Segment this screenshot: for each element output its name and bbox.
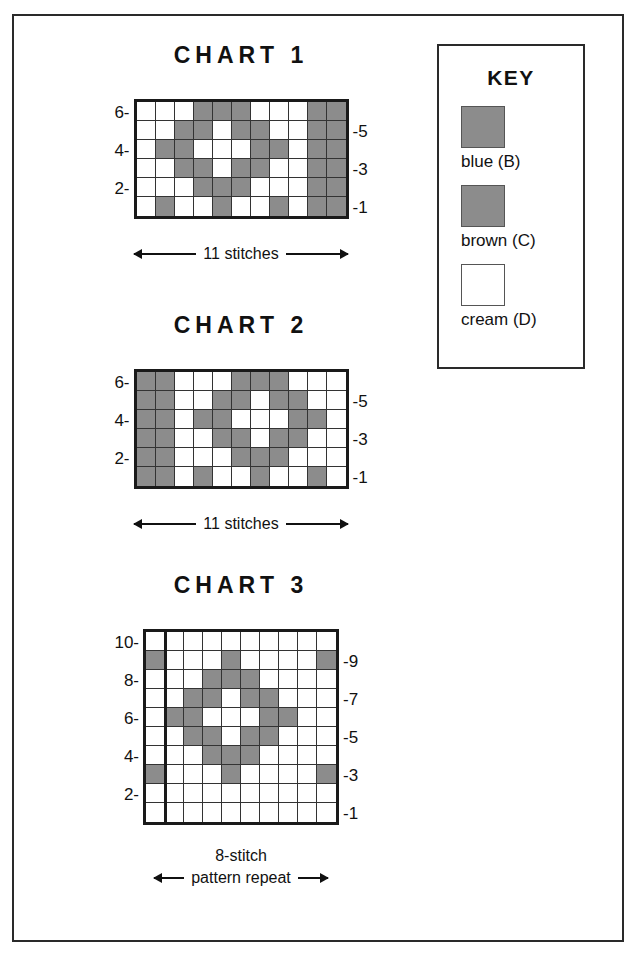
chart-cell (260, 670, 279, 689)
chart-cell (222, 765, 241, 784)
chart-cell (165, 765, 184, 784)
chart-cell (289, 197, 308, 216)
row-label-left: 2- (114, 180, 129, 197)
chart-2-body: 6-4-2- -5-3-1 (66, 369, 416, 489)
chart-cell (194, 372, 213, 391)
chart-cell (213, 429, 232, 448)
chart-cell (175, 197, 194, 216)
row-label-left: 4- (114, 412, 129, 429)
chart-cell (251, 410, 270, 429)
chart-cell (194, 410, 213, 429)
chart-cell (298, 765, 317, 784)
chart-cell (203, 784, 222, 803)
chart-cell (251, 121, 270, 140)
chart-cell (232, 410, 251, 429)
chart-cell (232, 391, 251, 410)
chart-cell (137, 467, 156, 486)
left-arrow-icon (154, 877, 184, 879)
chart-cell (260, 708, 279, 727)
chart-cell (184, 632, 203, 651)
chart-1-left-row-labels: 6-4-2- (92, 99, 134, 213)
chart-cell (298, 708, 317, 727)
chart-cell (317, 784, 336, 803)
chart-cell (270, 178, 289, 197)
chart-cell (184, 746, 203, 765)
chart-cell (146, 708, 165, 727)
chart-cell (156, 391, 175, 410)
chart-cell (308, 159, 327, 178)
chart-cell (327, 197, 346, 216)
chart-cell (327, 178, 346, 197)
chart-cell (308, 372, 327, 391)
chart-cell (289, 391, 308, 410)
chart-cell (289, 121, 308, 140)
chart-3-left-row-labels: 10-8-6-4-2- (101, 629, 143, 819)
chart-cell (270, 429, 289, 448)
key-item: blue (B) (461, 106, 583, 172)
chart-cell (175, 429, 194, 448)
chart-cell (279, 670, 298, 689)
chart-cell (241, 803, 260, 822)
chart-cell (194, 121, 213, 140)
chart-cell (232, 102, 251, 121)
chart-cell (222, 727, 241, 746)
chart-cell (194, 197, 213, 216)
right-arrow-icon (286, 253, 348, 255)
key-title: KEY (439, 66, 583, 90)
chart-cell (298, 727, 317, 746)
chart-cell (260, 803, 279, 822)
chart-cell (279, 708, 298, 727)
chart-1-title: CHART 1 (66, 42, 416, 69)
chart-cell (270, 410, 289, 429)
row-label-right: -1 (353, 199, 368, 216)
chart-cell (137, 140, 156, 159)
chart-2-caption: 11 stitches (66, 515, 416, 533)
chart-cell (279, 784, 298, 803)
chart-cell (194, 140, 213, 159)
chart-cell (213, 178, 232, 197)
row-label-left: 4- (124, 748, 139, 765)
chart-cell (232, 140, 251, 159)
chart-cell (298, 651, 317, 670)
chart-cell (279, 689, 298, 708)
chart-cell (298, 803, 317, 822)
row-label-left: 2- (124, 786, 139, 803)
chart-cell (251, 178, 270, 197)
row-label-right: -3 (353, 431, 368, 448)
chart-cell (175, 448, 194, 467)
chart-cell (317, 632, 336, 651)
chart-cell (298, 670, 317, 689)
chart-cell (146, 727, 165, 746)
chart-cell (289, 448, 308, 467)
chart-cell (213, 140, 232, 159)
chart-cell (156, 159, 175, 178)
left-arrow-icon (134, 523, 196, 525)
key-label: blue (B) (461, 152, 583, 172)
chart-cell (222, 670, 241, 689)
chart-cell (194, 159, 213, 178)
chart-cell (251, 159, 270, 178)
chart-cell (222, 784, 241, 803)
chart-cell (260, 765, 279, 784)
chart-cell (165, 708, 184, 727)
chart-cell (241, 784, 260, 803)
chart-cell (194, 102, 213, 121)
chart-cell (156, 102, 175, 121)
chart-cell (222, 689, 241, 708)
chart-cell (175, 372, 194, 391)
row-label-right: -9 (343, 653, 358, 670)
row-label-left: 8- (124, 672, 139, 689)
chart-cell (175, 410, 194, 429)
chart-cell (203, 651, 222, 670)
chart-cell (232, 197, 251, 216)
row-label-right: -5 (353, 393, 368, 410)
chart-cell (137, 429, 156, 448)
chart-1-block: CHART 1 6-4-2- -5-3-1 11 stitches (66, 42, 416, 263)
chart-3-caption-text: pattern repeat (191, 869, 291, 887)
chart-cell (317, 670, 336, 689)
chart-cell (260, 689, 279, 708)
key-label: brown (C) (461, 231, 583, 251)
chart-cell (203, 765, 222, 784)
chart-cell (260, 632, 279, 651)
chart-cell (156, 197, 175, 216)
